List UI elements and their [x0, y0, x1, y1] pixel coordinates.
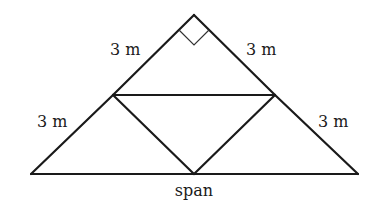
- label-bottom-left: 3 m: [37, 112, 67, 131]
- right-rafter-lower: [275, 95, 358, 174]
- label-bottom-right: 3 m: [318, 112, 348, 131]
- label-span: span: [175, 181, 213, 200]
- left-web: [113, 95, 194, 174]
- right-angle-marker: [179, 30, 209, 45]
- label-top-right: 3 m: [246, 40, 276, 59]
- left-rafter-lower: [31, 95, 113, 174]
- right-web: [194, 95, 275, 174]
- label-top-left: 3 m: [110, 40, 140, 59]
- truss-diagram: 3 m 3 m 3 m 3 m span: [0, 0, 379, 212]
